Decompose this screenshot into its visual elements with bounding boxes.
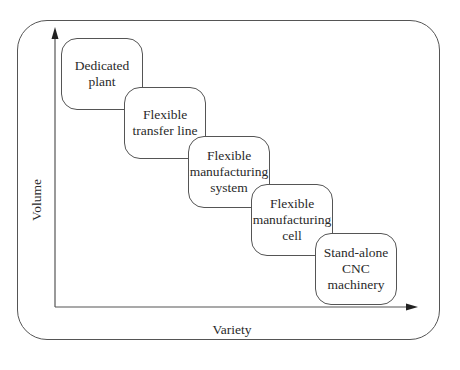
box-line: plant: [89, 74, 116, 90]
y-axis-label: Volume: [29, 179, 45, 221]
box-line: cell: [282, 228, 302, 244]
box-line: manufacturing: [253, 212, 332, 228]
box-line: system: [210, 180, 248, 196]
box-stand-alone-cnc-machinery: Stand-alone CNC machinery: [315, 233, 397, 305]
y-axis: [52, 27, 59, 307]
box-line: CNC: [342, 261, 370, 277]
box-line: transfer line: [133, 123, 198, 139]
box-line: Flexible: [143, 107, 187, 123]
box-line: Dedicated: [75, 58, 130, 74]
box-line: machinery: [328, 277, 385, 293]
box-line: Flexible: [207, 148, 251, 164]
x-axis-arrowhead-icon: [406, 304, 418, 311]
x-axis-label: Variety: [213, 322, 252, 338]
box-line: Flexible: [270, 196, 314, 212]
y-axis-arrowhead-icon: [52, 27, 59, 39]
box-line: Stand-alone: [324, 245, 388, 261]
box-line: manufacturing: [190, 164, 269, 180]
